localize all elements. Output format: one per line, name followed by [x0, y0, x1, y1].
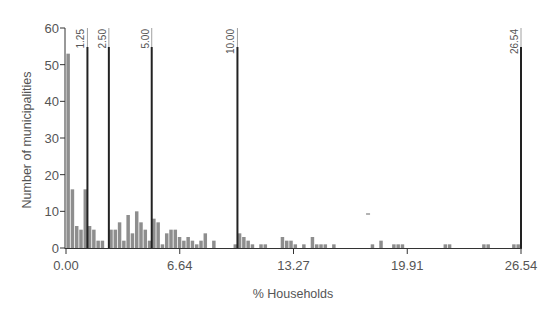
histogram-bar — [315, 244, 318, 248]
histogram-bar — [165, 233, 168, 248]
x-tick-label: 26.54 — [505, 258, 538, 273]
histogram-bar — [486, 244, 489, 248]
histogram-bar — [448, 244, 451, 248]
histogram-bar — [371, 244, 374, 248]
histogram-bar — [294, 244, 297, 248]
histogram-bar — [131, 233, 134, 248]
histogram-bar — [281, 237, 284, 248]
histogram-chart: 1.252.505.0010.0026.54 01020304050600.00… — [0, 0, 554, 313]
histogram-bar — [126, 215, 129, 248]
histogram-bar — [289, 241, 292, 248]
y-tick-label: 20 — [45, 168, 59, 183]
histogram-bar — [212, 241, 215, 248]
histogram-bar — [174, 230, 177, 248]
histogram-bar — [444, 244, 447, 248]
histogram-bar — [264, 244, 267, 248]
histogram-bar — [379, 241, 382, 248]
histogram-bar — [396, 244, 399, 248]
y-tick-label: 50 — [45, 58, 59, 73]
reference-line-label: 10.00 — [225, 29, 236, 54]
histogram-bar — [319, 244, 322, 248]
y-tick-label: 40 — [45, 94, 59, 109]
histogram-bar — [259, 244, 262, 248]
histogram-bar — [144, 230, 147, 248]
histogram-bar — [482, 244, 485, 248]
histogram-bar — [285, 241, 288, 248]
histogram-bar — [311, 237, 314, 248]
histogram-bar — [66, 54, 69, 248]
reference-line-label: 26.54 — [509, 29, 520, 54]
histogram-bar — [401, 244, 404, 248]
histogram-bar — [75, 226, 78, 248]
histogram-bar — [302, 244, 305, 248]
histogram-bar — [182, 241, 185, 248]
histogram-bar — [195, 244, 198, 248]
histogram-bar — [251, 244, 254, 248]
histogram-bar — [156, 222, 159, 248]
histogram-bar — [114, 230, 117, 248]
reference-lines: 1.252.505.0010.0026.54 — [75, 28, 521, 248]
x-tick-label: 0.00 — [53, 258, 78, 273]
histogram-bar — [516, 244, 519, 248]
x-tick-label: 6.64 — [167, 258, 192, 273]
histogram-bar — [242, 237, 245, 248]
histogram-bars — [66, 54, 520, 248]
x-axis-label: % Households — [253, 287, 334, 301]
histogram-bar — [92, 230, 95, 248]
histogram-bar — [178, 237, 181, 248]
y-axis-label: Number of municipalities — [20, 72, 34, 209]
histogram-bar — [324, 244, 327, 248]
histogram-bar — [169, 230, 172, 248]
x-tick-label: 19.91 — [391, 258, 424, 273]
histogram-bar — [186, 237, 189, 248]
histogram-bar — [135, 211, 138, 248]
y-tick-label: 30 — [45, 131, 59, 146]
histogram-bar — [139, 222, 142, 248]
reference-line-label: 1.25 — [75, 29, 86, 49]
histogram-bar — [101, 241, 104, 248]
y-tick-label: 10 — [45, 204, 59, 219]
chart-canvas: 1.252.505.0010.0026.54 01020304050600.00… — [0, 0, 554, 313]
x-tick-label: 13.27 — [277, 258, 310, 273]
histogram-bar — [246, 241, 249, 248]
histogram-bar — [79, 230, 82, 248]
reference-line-label: 2.50 — [97, 29, 108, 49]
histogram-bar — [71, 189, 74, 248]
histogram-bar — [96, 241, 99, 248]
histogram-bar — [512, 244, 515, 248]
histogram-bar — [191, 241, 194, 248]
histogram-bar — [204, 233, 207, 248]
histogram-bar — [161, 244, 164, 248]
reference-line-label: 5.00 — [140, 29, 151, 49]
y-tick-label: 0 — [52, 241, 59, 256]
y-tick-label: 60 — [45, 21, 59, 36]
histogram-bar — [199, 241, 202, 248]
histogram-bar — [392, 244, 395, 248]
histogram-bar — [118, 222, 121, 248]
histogram-bar — [122, 241, 125, 248]
histogram-bar — [332, 244, 335, 248]
